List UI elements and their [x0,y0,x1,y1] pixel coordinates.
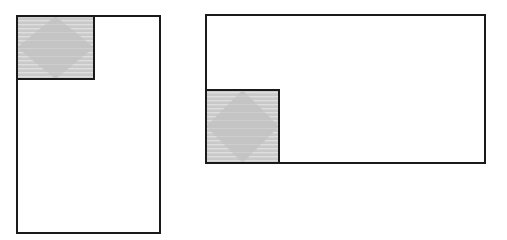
left-figure-group [17,16,160,233]
right-figure-group [206,15,485,163]
figure-canvas-root [0,0,507,240]
geometry-figure-svg [0,0,507,240]
